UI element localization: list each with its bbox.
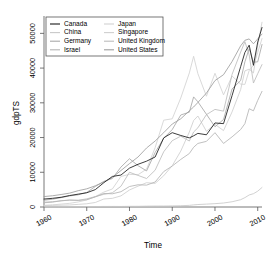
legend-label: Israel <box>64 46 81 53</box>
y-tick-label: 50000 <box>28 23 37 44</box>
chart-container: 01000020000300004000050000 1960197019801… <box>0 0 277 266</box>
legend-label: United States <box>118 46 158 53</box>
line-chart: 01000020000300004000050000 1960197019801… <box>0 0 277 266</box>
x-axis-title: Time <box>144 241 162 250</box>
chart-legend: CanadaChinaGermanyIsraelJapanSingaporeUn… <box>46 17 165 56</box>
legend-label: United Kingdom <box>118 37 165 45</box>
legend-label: Canada <box>64 20 87 27</box>
legend-label: China <box>64 28 82 35</box>
y-tick-label: 20000 <box>28 127 37 148</box>
y-tick-label: 40000 <box>28 58 37 79</box>
y-tick-label: 0 <box>28 205 37 209</box>
y-axis-title: gdpTS <box>12 100 21 125</box>
y-tick-label: 30000 <box>28 93 37 114</box>
y-tick-label: 10000 <box>28 162 37 183</box>
legend-label: Singapore <box>118 28 148 36</box>
legend-label: Germany <box>64 37 92 45</box>
legend-label: Japan <box>118 20 136 28</box>
